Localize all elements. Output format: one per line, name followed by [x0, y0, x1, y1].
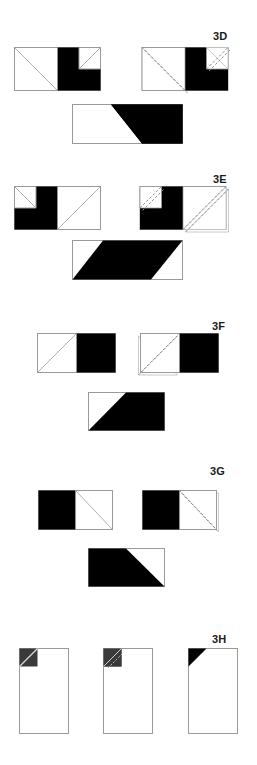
figure-3f-unfolded-sheet: [37, 333, 117, 374]
figure-3e-folded-result: [72, 240, 184, 281]
figure-3d-fold-indicated-sheet: [138, 44, 234, 96]
figure-3e-unfolded-sheet: [14, 186, 102, 231]
figure-3h-unfolded-sheet: [19, 648, 70, 735]
puzzle-sheet: 3D: [0, 0, 257, 765]
panel-label-3h: 3H: [212, 634, 226, 645]
panel-label-3d: 3D: [213, 31, 227, 42]
figure-3d-folded-result: [72, 104, 184, 145]
figure-3h-fold-indicated-sheet: [103, 645, 161, 735]
figure-3h-folded-result: [188, 648, 239, 735]
panel-label-3g: 3G: [210, 466, 225, 477]
figure-3f-fold-indicated-sheet: [138, 330, 224, 380]
figure-3e-fold-indicated-sheet: [136, 183, 234, 237]
figure-3g-fold-indicated-sheet: [139, 487, 223, 537]
figure-3f-folded-result: [88, 392, 166, 432]
figure-3d-unfolded-sheet: [14, 47, 102, 92]
figure-3g-unfolded-sheet: [38, 490, 114, 531]
figure-3g-folded-result: [88, 548, 166, 588]
